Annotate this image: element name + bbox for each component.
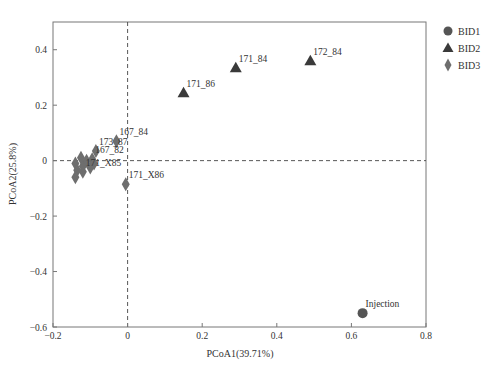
point-label: 167_82 [95,145,124,155]
y-tick-label: −0.4 [30,267,47,277]
legend: BID1BID2BID3 [443,26,481,72]
pcoa-scatter-chart: −0.200.20.40.60.8 −0.6−0.4−0.200.20.4 In… [0,0,490,370]
point-label: 171_86 [187,79,216,89]
x-axis-title: PCoA1(39.71%) [207,348,274,360]
y-tick-label: −0.6 [30,323,47,333]
y-tick-label: 0.2 [35,101,47,111]
point-label: 171_X86 [129,170,165,180]
reference-lines [53,22,426,327]
point-label: Injection [366,299,400,309]
x-tick-label: 0.2 [196,331,208,341]
x-tick-label: 0.8 [420,331,432,341]
diamond-marker-icon [445,59,452,72]
x-tick-label: −0.2 [44,331,61,341]
y-tick-label: 0.4 [35,45,47,55]
point-label: 167_84 [119,127,148,137]
plot-border [53,22,426,327]
x-tick-label: 0.4 [271,331,283,341]
y-tick-label: −0.2 [30,212,47,222]
legend-item-label: BID2 [458,43,480,54]
data-points [71,55,367,318]
legend-item-label: BID3 [458,60,480,71]
point-label: 171_84 [239,54,268,64]
circle-marker-icon [358,308,368,318]
legend-item-label: BID1 [458,26,480,37]
circle-marker-icon [444,27,453,36]
y-tick-label: 0 [42,156,47,166]
x-tick-label: 0 [125,331,130,341]
y-axis-title: PCoA2(25.8%) [7,143,19,205]
plot-frame [53,22,426,327]
point-labels: Injection171_86171_84172_84167_84173_871… [86,47,400,309]
triangle-marker-icon [443,43,454,53]
point-label: 172_84 [313,47,342,57]
point-label: 171_X85 [86,158,122,168]
x-tick-label: 0.6 [345,331,357,341]
x-axis-ticks: −0.200.20.40.60.8 [44,323,432,341]
